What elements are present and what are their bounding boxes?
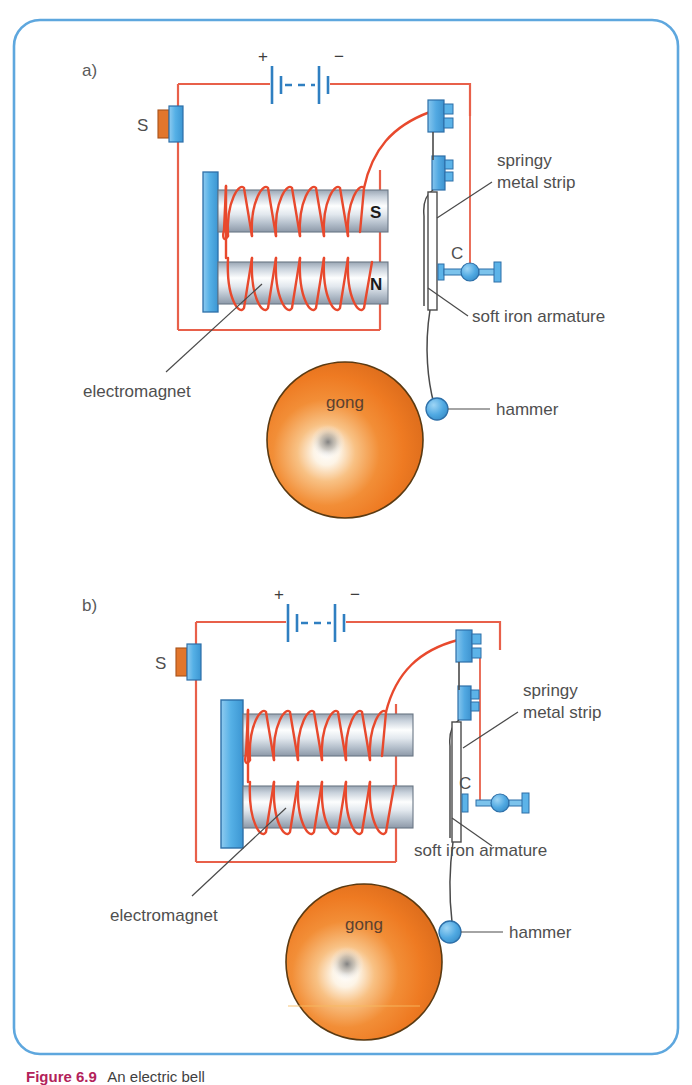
panel-b-label: b) bbox=[82, 596, 97, 615]
terminal-upper-tab2-b bbox=[472, 648, 481, 658]
contact-label-b: C bbox=[459, 774, 471, 793]
contact-screw-head-a[interactable] bbox=[461, 263, 479, 281]
gong-body-a bbox=[267, 362, 423, 518]
soft-iron-armature-a bbox=[428, 192, 437, 310]
gong-b: gong bbox=[286, 884, 442, 1040]
svg-text:Figure 6.9 An electric: Figure 6.9 An electric bell bbox=[26, 1068, 205, 1085]
terminal-lower-tab1-a bbox=[445, 160, 453, 169]
terminal-upper-body-b bbox=[456, 630, 472, 662]
gong-center-highlight-b bbox=[330, 947, 364, 981]
switch-blue-lever-a[interactable] bbox=[169, 106, 183, 142]
terminal-upper-tab1-a bbox=[444, 104, 453, 114]
contact-point-b[interactable] bbox=[462, 794, 468, 812]
contact-post-b[interactable] bbox=[522, 793, 529, 813]
electric-bell-diagram: a) bbox=[0, 0, 692, 1085]
electromagnet-backplate-a bbox=[203, 172, 218, 312]
terminal-lower-tab1-b bbox=[471, 690, 479, 699]
contact-shaft-left-a[interactable] bbox=[444, 269, 462, 275]
switch-orange-block-b[interactable] bbox=[176, 648, 187, 676]
terminal-upper-tab2-a bbox=[444, 118, 453, 128]
figure-caption: Figure 6.9 An electric bell bbox=[26, 1068, 205, 1085]
springy-label-line2-b: metal strip bbox=[523, 703, 601, 722]
terminal-upper-body-a bbox=[428, 100, 444, 132]
hammer-head-b bbox=[439, 921, 461, 943]
switch-orange-block-a[interactable] bbox=[158, 110, 169, 138]
hammer-label-b: hammer bbox=[509, 923, 572, 942]
hammer-head-a bbox=[426, 398, 448, 420]
core-upper-pole-label-a: S bbox=[370, 203, 381, 222]
armature-label-a: soft iron armature bbox=[472, 307, 605, 326]
gong-a: gong bbox=[267, 362, 423, 518]
gong-center-highlight-a bbox=[311, 425, 345, 459]
electromagnet-backplate-b bbox=[221, 700, 243, 848]
battery-plus-label-a: + bbox=[258, 47, 268, 66]
hammer-label-a: hammer bbox=[496, 400, 559, 419]
springy-label-line1-b: springy bbox=[523, 681, 578, 700]
caption-text: An electric bell bbox=[107, 1068, 205, 1085]
electromagnet-label-a: electromagnet bbox=[83, 382, 191, 401]
switch-label-b: S bbox=[155, 654, 166, 673]
springy-label-line2-a: metal strip bbox=[497, 173, 575, 192]
gong-label-b: gong bbox=[345, 915, 383, 934]
switch-blue-lever-b[interactable] bbox=[187, 644, 201, 680]
springy-label-line1-a: springy bbox=[497, 151, 552, 170]
contact-shaft-right-b[interactable] bbox=[509, 800, 523, 806]
contact-point-a[interactable] bbox=[438, 264, 444, 280]
armature-label-b: soft iron armature bbox=[414, 841, 547, 860]
gong-label-a: gong bbox=[326, 393, 364, 412]
contact-shaft-right-a[interactable] bbox=[479, 269, 495, 275]
core-lower-pole-label-a: N bbox=[370, 275, 382, 294]
contact-label-a: C bbox=[451, 244, 463, 263]
figure-container: a) bbox=[0, 0, 692, 1085]
panel-a-label: a) bbox=[82, 61, 97, 80]
contact-screw-head-b[interactable] bbox=[491, 794, 509, 812]
terminal-lower-body-a bbox=[432, 156, 445, 190]
battery-minus-label-b: − bbox=[350, 585, 360, 604]
battery-minus-label-a: − bbox=[334, 47, 344, 66]
terminal-upper-tab1-b bbox=[472, 634, 481, 644]
terminal-lower-tab2-b bbox=[471, 702, 479, 711]
contact-post-a[interactable] bbox=[494, 262, 501, 282]
battery-plus-label-b: + bbox=[274, 585, 284, 604]
switch-label-a: S bbox=[137, 116, 148, 135]
electromagnet-label-b: electromagnet bbox=[110, 906, 218, 925]
contact-shaft-left-b[interactable] bbox=[476, 800, 492, 806]
gong-body-b bbox=[286, 884, 442, 1040]
terminal-lower-tab2-a bbox=[445, 172, 453, 181]
caption-lead: Figure 6.9 bbox=[26, 1068, 97, 1085]
terminal-lower-body-b bbox=[458, 686, 471, 720]
